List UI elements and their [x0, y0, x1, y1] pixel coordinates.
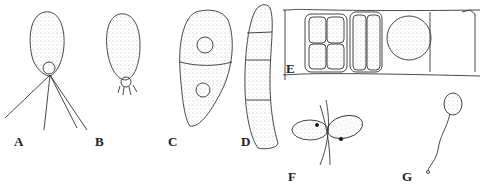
panel-label-d: D	[241, 135, 250, 148]
panel-label-c: C	[168, 135, 177, 148]
panel-label-e: E	[286, 62, 295, 75]
panel-f-gametes	[292, 100, 365, 165]
figure-drawing	[0, 0, 483, 186]
panel-d-cell	[245, 5, 278, 149]
panel-label-f: F	[288, 170, 296, 183]
panel-b-cell	[107, 14, 141, 95]
panel-label-a: A	[14, 135, 23, 148]
panel-a-cell	[5, 12, 87, 130]
panel-g-stalked-cell	[427, 93, 463, 174]
panel-c-cell	[180, 10, 233, 126]
panel-label-b: B	[95, 135, 104, 148]
panel-e-filament	[283, 9, 480, 80]
panel-label-g: G	[402, 170, 412, 183]
